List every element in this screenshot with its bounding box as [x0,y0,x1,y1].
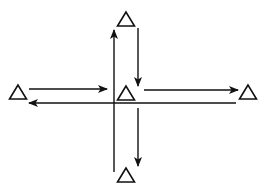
triangle-node-group [10,12,257,182]
triangle-icon-center [118,86,135,100]
triangle-icon-left [10,85,27,99]
triangle-icon-bottom [118,168,135,182]
triangle-icon-right [240,85,257,99]
triangle-icon-top [118,12,135,26]
flow-diagram [0,0,264,190]
